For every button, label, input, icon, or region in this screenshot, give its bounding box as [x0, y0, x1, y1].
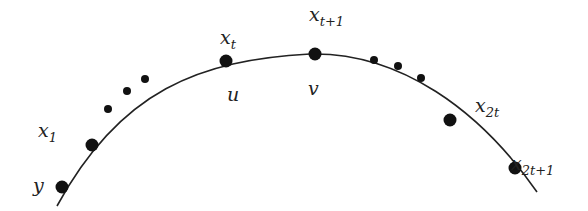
label-xt: xt [220, 26, 237, 52]
node-x2t [444, 114, 457, 127]
label-x2t: x2t [475, 94, 500, 120]
label-base: x [38, 119, 49, 141]
label-base: x [511, 152, 522, 174]
label-x2t1: x2t+1 [511, 152, 554, 178]
ellipsis-dot [417, 74, 425, 82]
ellipsis-dot [394, 62, 402, 70]
label-base: v [308, 77, 319, 99]
node-xt1 [309, 48, 322, 61]
ellipsis-right [370, 56, 425, 82]
label-xt1: xt+1 [309, 3, 344, 29]
label-sub: 2t [485, 105, 500, 120]
label-sub: 2t+1 [521, 163, 555, 178]
label-sub: 1 [49, 130, 57, 145]
label-base: x [309, 3, 320, 25]
label-v: v [308, 77, 319, 99]
ellipsis-dot [104, 105, 112, 113]
ellipsis-left [104, 75, 149, 113]
label-x1: x1 [38, 119, 57, 145]
label-u: u [227, 83, 239, 105]
curve-path [57, 54, 537, 206]
label-sub: t+1 [320, 14, 344, 29]
label-base: y [32, 174, 44, 196]
ellipsis-dot [123, 87, 131, 95]
label-base: x [475, 94, 486, 116]
path-diagram: y x1 xt u xt+1 v x2t x2t+1 [0, 0, 588, 211]
label-sub: t [231, 37, 237, 52]
ellipsis-dot [370, 56, 378, 64]
label-base: x [220, 26, 231, 48]
node-y [56, 181, 69, 194]
node-xt [220, 55, 233, 68]
label-y: y [32, 174, 44, 196]
label-base: u [227, 83, 239, 105]
node-x1 [86, 139, 99, 152]
ellipsis-dot [141, 75, 149, 83]
